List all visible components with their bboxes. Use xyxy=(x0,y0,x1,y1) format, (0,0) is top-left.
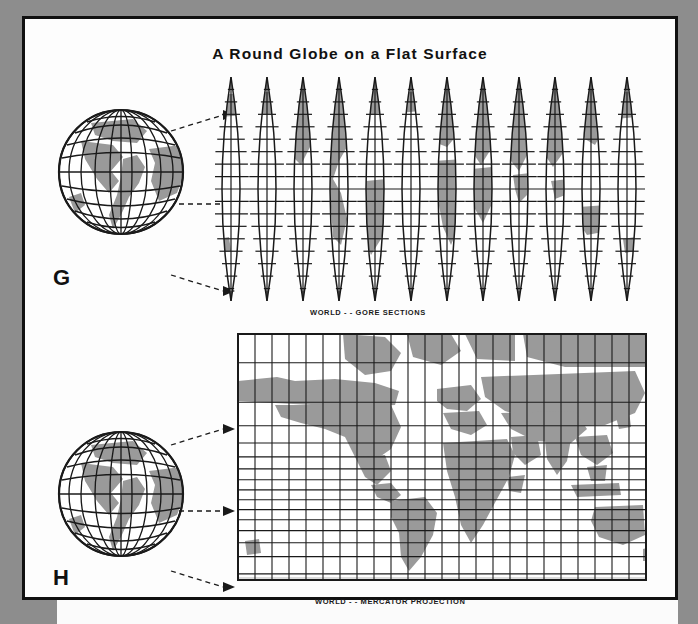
gore-graticule xyxy=(215,77,645,301)
figure-plate: A Round Globe on a Flat Surface G xyxy=(22,16,678,600)
gore-sections-map: 80°70°60°50°40°30°20°10°0°10°20°30°40°50… xyxy=(215,69,655,313)
mercator-projection-map: 80°70°60°50°40°30°20°10°0°10°20°30°40°50… xyxy=(215,309,655,593)
page-title: A Round Globe on a Flat Surface xyxy=(25,45,675,63)
mercator-map-caption: WORLD - - MERCATOR PROJECTION xyxy=(315,597,465,606)
figure-letter-g: G xyxy=(53,265,70,291)
scanner-background: A Round Globe on a Flat Surface G xyxy=(0,0,698,624)
